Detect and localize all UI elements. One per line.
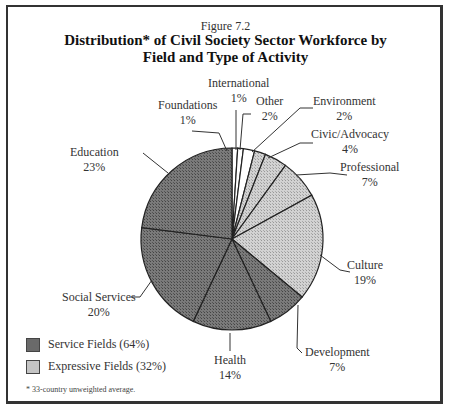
label-professional: Professional 7% — [340, 160, 399, 190]
legend-swatch-service — [26, 338, 40, 352]
label-foundations: Foundations 1% — [158, 98, 217, 128]
pie-slice-education — [142, 148, 232, 239]
label-education: Education 23% — [70, 145, 119, 175]
footnote: * 33-country unweighted average. — [26, 385, 135, 394]
label-other: Other 2% — [256, 94, 283, 124]
label-environment: Environment 2% — [313, 94, 376, 124]
label-development: Development 7% — [305, 345, 370, 375]
label-culture: Culture 19% — [347, 258, 383, 288]
label-social-services: Social Services 20% — [62, 290, 136, 320]
legend-swatch-expressive — [26, 360, 40, 374]
label-health: Health 14% — [214, 353, 246, 383]
legend-item-expressive: Expressive Fields (32%) — [26, 359, 166, 374]
label-civic-advocacy: Civic/Advocacy 4% — [311, 127, 389, 157]
pie-slices — [141, 148, 323, 330]
legend-item-service: Service Fields (64%) — [26, 337, 149, 352]
